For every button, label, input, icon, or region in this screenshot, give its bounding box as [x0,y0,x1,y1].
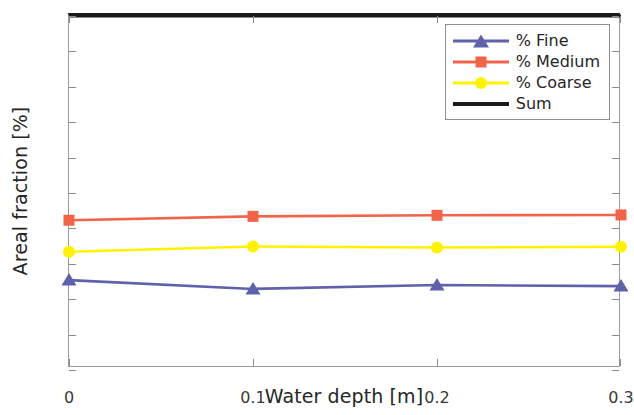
series-line [69,280,621,289]
y-tick-mark-right [612,370,619,371]
legend-label: % Coarse [516,73,592,92]
legend-item[interactable]: % Medium [453,51,600,72]
y-tick-mark [69,158,76,159]
y-tick-mark-right [612,158,619,159]
triangle-marker-icon [473,34,489,47]
chart-figure: Areal fraction [%] Water depth [m] 01020… [0,0,634,415]
y-tick-mark-right [612,299,619,300]
y-tick-mark-right [612,51,619,52]
x-tick-label: 0.3 [591,388,634,407]
data-point-marker [615,241,627,253]
x-tick-mark [437,359,438,366]
y-tick-mark [69,299,76,300]
y-tick-mark-right [612,264,619,265]
x-axis-title: Water depth [m] [68,385,620,407]
y-tick-mark [69,264,76,265]
y-tick-mark [69,87,76,88]
legend-label: % Medium [516,52,600,71]
y-tick-mark-right [612,16,619,17]
legend-swatch [453,32,509,50]
x-tick-mark-top [253,16,254,23]
y-tick-mark [69,51,76,52]
data-point-marker [616,209,627,220]
y-tick-mark-right [612,122,619,123]
y-tick-mark-right [612,193,619,194]
series-line [69,215,621,220]
y-tick-mark-right [612,87,619,88]
legend-label: % Fine [516,31,569,50]
data-point-marker [247,240,259,252]
y-tick-mark [69,193,76,194]
legend-item[interactable]: % Coarse [453,72,600,93]
legend-swatch [453,53,509,71]
x-tick-mark [253,359,254,366]
y-axis-title: Areal fraction [%] [9,11,31,371]
data-point-marker [431,242,443,254]
y-tick-mark-right [612,335,619,336]
y-tick-mark [69,122,76,123]
circle-marker-icon [475,77,487,89]
series-line [69,246,621,251]
legend-swatch [453,95,509,113]
legend-label: Sum [516,94,552,113]
x-tick-mark [620,359,621,366]
x-tick-mark-top [437,16,438,23]
square-marker-icon [475,56,486,67]
series-1 [62,273,629,294]
series-2 [64,209,627,225]
y-tick-mark [69,16,76,17]
data-point-marker [64,215,75,226]
y-tick-mark [69,370,76,371]
legend-item[interactable]: Sum [453,93,600,114]
x-tick-label: 0 [39,388,99,407]
x-tick-mark-top [69,16,70,23]
legend-swatch [453,74,509,92]
y-tick-mark [69,228,76,229]
legend-item[interactable]: % Fine [453,30,600,51]
x-tick-label: 0.2 [407,388,467,407]
data-point-marker [63,246,75,258]
y-tick-mark [69,335,76,336]
x-tick-mark-top [620,16,621,23]
series-3 [63,240,627,257]
legend-line [453,102,509,106]
legend: % Fine% Medium% CoarseSum [445,24,610,120]
y-tick-mark-right [612,228,619,229]
plot-area: 010203040506070809010000.10.20.3 % Fine%… [68,13,620,367]
data-point-marker [248,211,259,222]
x-tick-mark [69,359,70,366]
data-point-marker [432,210,443,221]
x-tick-label: 0.1 [223,388,283,407]
